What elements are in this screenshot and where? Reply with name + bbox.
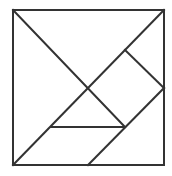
small-square-upper-edge xyxy=(125,50,164,88)
tangram-diagram xyxy=(0,0,172,176)
tangram-lines xyxy=(13,10,164,165)
